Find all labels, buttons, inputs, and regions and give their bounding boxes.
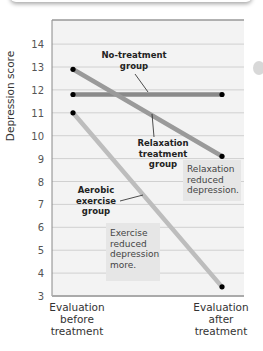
- data-point: [70, 92, 75, 97]
- y-tick: 3: [38, 291, 44, 302]
- x-tick-labels: EvaluationbeforetreatmentEvaluationafter…: [49, 301, 248, 337]
- data-point: [70, 67, 75, 72]
- y-tick: 4: [38, 268, 44, 279]
- data-point: [219, 154, 224, 159]
- y-tick: 8: [38, 177, 44, 188]
- data-point: [219, 92, 224, 97]
- y-tick: 14: [31, 39, 44, 50]
- decorative-figure-icon: [253, 61, 263, 75]
- y-tick: 12: [31, 85, 44, 96]
- data-point: [70, 110, 75, 115]
- data-point: [219, 284, 224, 289]
- y-tick: 5: [38, 245, 44, 256]
- y-tick: 10: [31, 131, 44, 142]
- y-tick: 13: [31, 62, 44, 73]
- y-tick: 11: [31, 108, 44, 119]
- y-tick-labels: 34567891011121314: [31, 39, 44, 302]
- x-tick: Evaluationaftertreatment: [193, 301, 248, 337]
- y-tick: 6: [38, 222, 44, 233]
- line-chart: 34567891011121314 Depression score No-tr…: [0, 0, 263, 351]
- y-tick: 9: [38, 154, 44, 165]
- y-axis-label: Depression score: [4, 51, 16, 141]
- y-tick: 7: [38, 199, 44, 210]
- x-tick: Evaluationbeforetreatment: [49, 301, 104, 337]
